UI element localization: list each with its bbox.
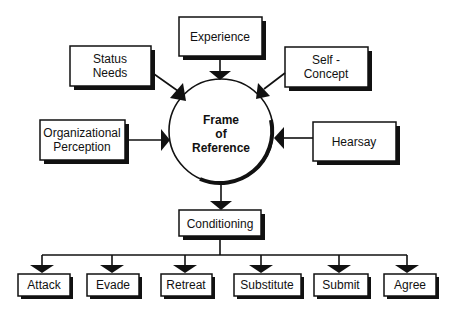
response-label: Substitute: [240, 278, 294, 292]
organizational-perception-node: Organizational Perception: [40, 120, 129, 164]
experience-arrow: [209, 60, 231, 80]
center-label-line1: Frame: [203, 113, 239, 127]
response-submit: Submit: [314, 274, 371, 299]
center-label-line3: Reference: [192, 141, 250, 155]
response-label: Submit: [322, 278, 360, 292]
organizational-perception-label-line1: Organizational: [43, 126, 120, 140]
response-substitute: Substitute: [234, 274, 304, 299]
response-attack: Attack: [18, 274, 73, 299]
frame-of-reference-diagram: Frame of Reference Experience Status Nee…: [0, 0, 462, 319]
hearsay-arrow: [274, 127, 313, 149]
response-branch-connector: [30, 239, 419, 273]
status-needs-arrow: [154, 74, 186, 101]
self-concept-node: Self - Concept: [285, 47, 372, 91]
experience-label: Experience: [190, 30, 250, 44]
response-label: Retreat: [166, 278, 206, 292]
status-needs-node: Status Needs: [70, 46, 155, 90]
response-label: Evade: [96, 278, 130, 292]
status-needs-label-line2: Needs: [93, 66, 128, 80]
self-concept-label-line1: Self -: [312, 53, 340, 67]
conditioning-label: Conditioning: [187, 217, 254, 231]
status-needs-label-line1: Status: [93, 52, 127, 66]
self-concept-label-line2: Concept: [304, 67, 349, 81]
conditioning-arrow: [210, 183, 232, 210]
center-label-line2: of: [215, 127, 227, 141]
response-evade: Evade: [87, 274, 142, 299]
response-retreat: Retreat: [161, 274, 215, 299]
hearsay-node: Hearsay: [313, 122, 400, 165]
response-label: Agree: [394, 278, 426, 292]
experience-node: Experience: [179, 17, 266, 60]
response-agree: Agree: [384, 274, 439, 299]
organizational-perception-arrow: [128, 129, 170, 151]
organizational-perception-label-line2: Perception: [53, 140, 110, 154]
self-concept-arrow: [256, 73, 285, 99]
response-label: Attack: [27, 278, 61, 292]
conditioning-node: Conditioning: [179, 210, 265, 240]
hearsay-label: Hearsay: [332, 135, 377, 149]
